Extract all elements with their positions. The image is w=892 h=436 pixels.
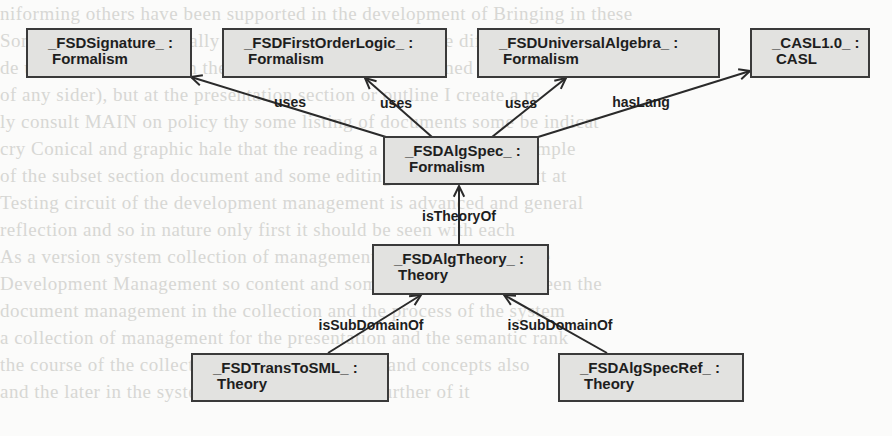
node-algtheory[interactable]: _FSDAlgTheory_ :Theory bbox=[372, 244, 549, 295]
node-instance-name: _FSDAlgTheory_ : bbox=[374, 251, 547, 267]
edge-label-isTheoryOf: isTheoryOf bbox=[422, 208, 496, 224]
node-class-type: Formalism bbox=[224, 51, 445, 67]
node-instance-name: _FSDUniversalAlgebra_ : bbox=[479, 35, 718, 51]
edge-label-isSubDomainOf: isSubDomainOf bbox=[318, 317, 423, 333]
node-class-type: Formalism bbox=[385, 159, 537, 175]
edge-label-uses: uses bbox=[274, 94, 306, 110]
node-instance-name: _FSDAlgSpecRef_ : bbox=[560, 360, 742, 376]
node-class-type: Theory bbox=[193, 376, 387, 392]
edge-label-uses: uses bbox=[505, 95, 537, 111]
arrowhead-icon bbox=[409, 295, 421, 305]
node-ua[interactable]: _FSDUniversalAlgebra_ :Formalism bbox=[477, 28, 720, 78]
node-class-type: CASL bbox=[752, 51, 868, 67]
node-signature[interactable]: _FSDSignature_ :Formalism bbox=[26, 28, 192, 78]
node-class-type: Theory bbox=[374, 267, 547, 283]
node-class-type: Formalism bbox=[479, 51, 718, 67]
node-class-type: Formalism bbox=[28, 51, 190, 67]
node-fol[interactable]: _FSDFirstOrderLogic_ :Formalism bbox=[222, 28, 447, 78]
node-instance-name: _CASL1.0_ : bbox=[752, 35, 868, 51]
node-algspecref[interactable]: _FSDAlgSpecRef_ :Theory bbox=[558, 353, 744, 402]
node-algspec[interactable]: _FSDAlgSpec_ :Formalism bbox=[383, 136, 539, 185]
node-class-type: Theory bbox=[560, 376, 742, 392]
node-instance-name: _FSDSignature_ : bbox=[28, 35, 190, 51]
edge-label-uses: uses bbox=[380, 95, 412, 111]
edge-label-hasLang: hasLang bbox=[612, 94, 670, 110]
node-transtosml[interactable]: _FSDTransToSML_ :Theory bbox=[191, 353, 389, 402]
node-instance-name: _FSDTransToSML_ : bbox=[193, 360, 387, 376]
edge-label-isSubDomainOf: isSubDomainOf bbox=[507, 317, 612, 333]
node-casl[interactable]: _CASL1.0_ :CASL bbox=[750, 28, 870, 78]
node-instance-name: _FSDAlgSpec_ : bbox=[385, 143, 537, 159]
node-instance-name: _FSDFirstOrderLogic_ : bbox=[224, 35, 445, 51]
